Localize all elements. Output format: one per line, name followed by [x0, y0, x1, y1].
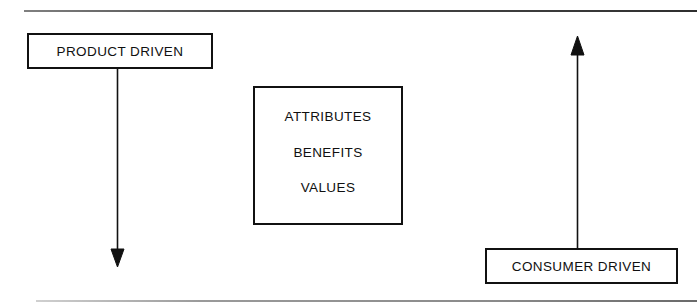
consumer-driven-label: CONSUMER DRIVEN — [512, 259, 652, 274]
product-driven-box: PRODUCT DRIVEN — [27, 33, 213, 69]
ladder-item-values: VALUES — [301, 181, 356, 195]
means-end-chain-diagram: PRODUCT DRIVEN ATTRIBUTES BENEFITS VALUE… — [0, 0, 700, 308]
ladder-item-attributes: ATTRIBUTES — [284, 110, 371, 124]
product-driven-down-arrow-head — [111, 249, 124, 267]
product-driven-label: PRODUCT DRIVEN — [57, 44, 184, 59]
ladder-item-benefits: BENEFITS — [293, 146, 362, 160]
consumer-driven-up-arrow-head — [571, 36, 584, 55]
ladder-box: ATTRIBUTES BENEFITS VALUES — [253, 86, 403, 225]
top-divider-rule — [24, 10, 697, 12]
bottom-divider-rule — [36, 300, 697, 302]
consumer-driven-box: CONSUMER DRIVEN — [485, 248, 678, 284]
